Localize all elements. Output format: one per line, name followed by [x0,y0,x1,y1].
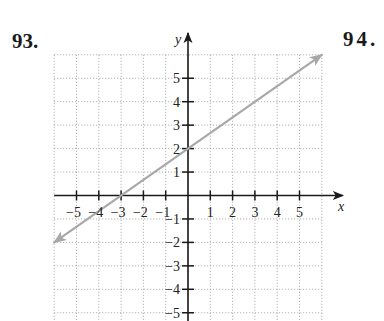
y-tick-label: −2 [165,235,180,250]
x-tick-label: −3 [111,205,126,220]
x-tick-label: 2 [229,205,236,220]
y-tick-label: 1 [173,165,180,180]
x-axis-label: x [337,199,345,214]
x-tick-label: −2 [133,205,148,220]
y-tick-label: −1 [165,212,180,227]
axis-labels: −5−4−3−2−112345−5−4−3−2−112345xy [66,32,345,321]
x-tick-label: 3 [251,205,258,220]
x-tick-label: 5 [296,205,303,220]
y-tick-label: 3 [173,118,180,133]
y-tick-label: −4 [165,282,180,297]
y-tick-label: 5 [173,71,180,86]
y-tick-label: 2 [173,142,180,157]
x-tick-label: −5 [66,205,81,220]
y-axis-label: y [173,32,182,47]
x-tick-label: 1 [207,205,214,220]
coordinate-plane: −5−4−3−2−112345−5−4−3−2−112345xy [0,0,384,321]
y-tick-label: −5 [165,306,180,321]
x-tick-label: −4 [88,205,103,220]
y-tick-label: −3 [165,259,180,274]
x-tick-label: 4 [274,205,281,220]
y-tick-label: 4 [173,95,180,110]
